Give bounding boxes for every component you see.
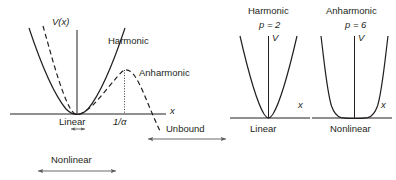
panel1-y-axis-label: V(x)	[52, 17, 69, 27]
linear-region-label: Linear	[59, 117, 85, 127]
panel-anharmonic-p6	[312, 36, 392, 119]
panel2-title: Harmonic	[248, 6, 289, 16]
panel2-x-axis-label: x	[298, 100, 303, 110]
potential-energy-figure: V(x) Harmonic Anharmonic x Linear 1/α Un…	[0, 0, 396, 180]
panel3-y-axis-label: V	[358, 33, 364, 43]
panel2-y-axis-label: V	[272, 33, 278, 43]
panel-potential-comparison	[10, 26, 226, 171]
panel2-exponent-label: p = 2	[259, 20, 280, 30]
nonlinear-region-label: Nonlinear	[51, 155, 92, 165]
panel3-x-axis-label: x	[381, 100, 386, 110]
harmonic-curve-label: Harmonic	[108, 36, 149, 46]
panel3-caption: Nonlinear	[330, 124, 371, 134]
panel3-title: Anharmonic	[326, 6, 377, 16]
unbound-label: Unbound	[166, 124, 205, 134]
anharmonic-curve-label: Anharmonic	[139, 68, 190, 78]
panel3-exponent-label: p = 6	[345, 20, 366, 30]
panel2-caption: Linear	[250, 124, 276, 134]
panel1-x-axis-label: x	[170, 106, 175, 116]
figure-canvas	[0, 0, 396, 180]
peak-position-label: 1/α	[113, 117, 126, 127]
